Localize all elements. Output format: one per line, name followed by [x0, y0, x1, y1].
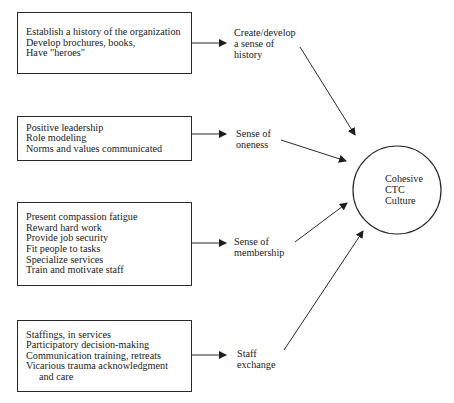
- cohesive-culture-label: Cohesive CTC Culture: [385, 173, 423, 206]
- outcome-line: Staff: [237, 348, 275, 359]
- center-label-line: Culture: [385, 195, 423, 206]
- arrow-staff-exchange-to-culture: [284, 231, 363, 350]
- staff-exchange-actions-box: Staffings, in services Participatory dec…: [17, 320, 192, 392]
- outcome-line: Sense of: [236, 128, 271, 139]
- box-item: Fit people to tasks: [26, 244, 191, 255]
- center-label-line: CTC: [385, 184, 423, 195]
- outcome-line: Create/develop: [234, 27, 296, 38]
- arrow-membership-to-culture: [295, 203, 347, 242]
- box-item: and care: [26, 372, 191, 383]
- outcome-line: membership: [234, 247, 284, 258]
- outcome-line: oneness: [236, 139, 271, 150]
- outcome-label-staff-exchange: Staff exchange: [237, 348, 275, 370]
- outcome-label-membership: Sense of membership: [234, 236, 284, 258]
- outcome-line: exchange: [237, 359, 275, 370]
- box-item: Train and motivate staff: [26, 265, 191, 276]
- arrow-oneness-to-culture: [281, 140, 346, 161]
- outcome-line: a sense of: [234, 38, 296, 49]
- center-label-line: Cohesive: [385, 173, 423, 184]
- history-actions-box: Establish a history of the organization …: [17, 12, 192, 74]
- box-item: Norms and values communicated: [26, 144, 191, 155]
- arrow-history-to-culture: [300, 47, 355, 135]
- diagram-canvas: Establish a history of the organization …: [0, 0, 454, 403]
- outcome-line: history: [234, 49, 296, 60]
- outcome-label-history: Create/develop a sense of history: [234, 27, 296, 60]
- oneness-actions-box: Positive leadership Role modeling Norms …: [17, 116, 192, 161]
- outcome-line: Sense of: [234, 236, 284, 247]
- membership-actions-box: Present compassion fatigue Reward hard w…: [17, 202, 192, 286]
- outcome-label-oneness: Sense of oneness: [236, 128, 271, 150]
- box-item: Have "heroes": [26, 48, 191, 59]
